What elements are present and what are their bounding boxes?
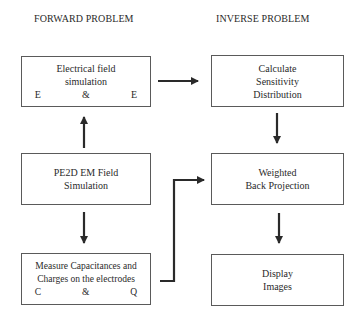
connector-arrows [0, 0, 363, 325]
elbow-arrow-icon [160, 180, 204, 281]
